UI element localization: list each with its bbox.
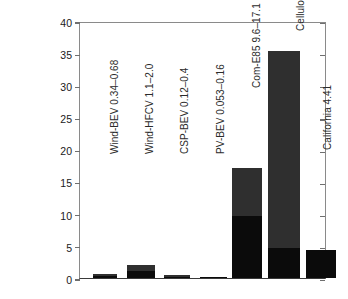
y-axis-tick-mark-right (320, 152, 325, 153)
y-axis-tick-mark-right (320, 55, 325, 56)
y-axis-tick-mark (75, 22, 80, 23)
plot-area: 0510152025303540Wind-BEV 0.34–0.68Wind-H… (79, 22, 326, 279)
y-axis-tick-mark (75, 215, 80, 216)
y-axis-tick-label: 15 (60, 178, 75, 189)
bar-segment-high (268, 51, 300, 248)
bar-segment-low (268, 248, 300, 278)
bar-label: Com-E85 9.6–17.1 (252, 3, 262, 88)
bar-label: CSP-BEV 0.12–0.4 (180, 68, 190, 154)
y-axis-tick-mark (75, 279, 80, 280)
bar (268, 51, 300, 278)
y-axis-tick-mark (75, 119, 80, 120)
y-axis-tick-label: 30 (60, 82, 75, 93)
y-axis-tick-mark (75, 151, 80, 152)
bar (164, 275, 190, 278)
bar-segment-low (200, 277, 227, 279)
y-axis-title: Percent of U.S. land for technology spac… (0, 0, 36, 299)
y-axis-tick-label: 25 (60, 114, 75, 125)
y-axis-tick-label: 40 (60, 18, 75, 29)
y-axis-tick-label: 5 (66, 243, 75, 254)
bar (200, 277, 227, 278)
y-axis-tick-mark (75, 55, 80, 56)
bar-segment-low (306, 250, 336, 278)
bar (93, 274, 117, 278)
bar-chart-figure: Percent of U.S. land for technology spac… (0, 0, 348, 299)
y-axis-tick-label: 20 (60, 146, 75, 157)
bar-label: Wind-BEV 0.34–0.68 (110, 60, 120, 154)
y-axis-tick-mark (75, 247, 80, 248)
bar (127, 265, 155, 278)
bar (232, 168, 262, 278)
y-axis-tick-mark (75, 183, 80, 184)
y-axis-tick-mark (75, 87, 80, 88)
bar-label: PV-BEV 0.053–0.16 (216, 64, 226, 154)
y-axis-tick-label: 35 (60, 50, 75, 61)
bar-segment-low (232, 216, 262, 278)
y-axis-tick-mark-right (320, 216, 325, 217)
bar (306, 250, 336, 278)
y-axis-tick-mark-right (320, 23, 325, 24)
bar-label: California 4.41 (323, 85, 333, 150)
y-axis-tick-mark-right (320, 184, 325, 185)
bar-segment-low (127, 271, 155, 278)
y-axis-tick-mark-right (320, 280, 325, 281)
bar-segment-low (93, 276, 117, 278)
bar-label: Cellulosic-E85 4.6–34.3 (296, 0, 306, 31)
bar-segment-high (232, 168, 262, 216)
y-axis-tick-label: 10 (60, 211, 75, 222)
y-axis-tick-label: 0 (66, 275, 75, 286)
bar-label: Wind-HFCV 1.1–2.0 (145, 64, 155, 154)
bar-segment-low (164, 277, 190, 279)
